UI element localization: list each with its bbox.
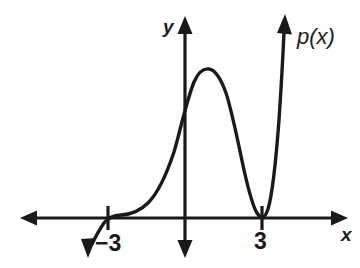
curve-left-down-arrow-icon [81,238,96,258]
tick-label-pos-3: 3 [254,230,267,253]
curve-right-up-arrow-icon [277,14,292,35]
y-axis-down-arrow-icon [178,240,193,258]
curve-path-p-of-x [92,32,284,244]
x-axis-left-arrow-icon [20,211,37,226]
y-axis-up-arrow-icon [178,16,193,34]
graph-figure: y x p(x) −3 3 [0,0,360,268]
tick-label-neg-3: −3 [95,232,121,255]
curve-label-p-of-x: p(x) [297,26,335,48]
y-axis-label: y [163,17,174,36]
x-axis-label: x [341,225,352,244]
